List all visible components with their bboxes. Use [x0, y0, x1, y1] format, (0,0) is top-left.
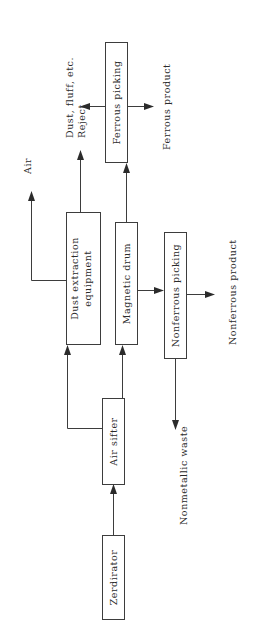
arrow-head-icon [110, 484, 117, 494]
edge-zerdirator-to-air-sifter [110, 484, 117, 535]
node-air-sifter[interactable]: Air sifter [103, 399, 125, 485]
node-dust-extraction[interactable]: Dust extraction equipment [67, 213, 101, 345]
flow-label-air: Air [22, 158, 33, 175]
flow-label-nonmetallic-waste: Nonmetallic waste [178, 426, 189, 525]
zerdirator-label: Zerdirator [108, 550, 119, 606]
dust-extraction-label: Dust extraction [69, 237, 80, 320]
flow-label-dust-fluff: Dust, fluff, etc. [64, 57, 75, 138]
flow-label-nonferrous-product: Nonferrous product [227, 239, 238, 345]
arrow-head-icon [123, 163, 130, 173]
ferrous-picking-label: Ferrous picking [111, 60, 122, 144]
arrow-head-icon [154, 287, 164, 294]
flow-label-reject: Reject [76, 104, 87, 138]
node-zerdirator[interactable]: Zerdirator [103, 536, 125, 620]
arrow-head-icon [119, 345, 126, 355]
flow-label-ferrous-product: Ferrous product [161, 64, 172, 150]
diagram-page: Zerdirator Air sifter Dust extraction eq… [0, 0, 275, 635]
edge-nonferrous-picking-to-nonferrous-product [187, 291, 216, 298]
arrow-head-icon [28, 191, 35, 201]
nonferrous-picking-label: Nonferrous picking [170, 244, 181, 347]
edge-ferrous-picking-to-ferrous-product [128, 103, 155, 110]
magnetic-drum-label: Magnetic drum [121, 243, 132, 324]
node-nonferrous-picking[interactable]: Nonferrous picking [165, 233, 187, 359]
edge-magnetic-drum-to-nonferrous-picking [138, 287, 165, 294]
dust-extraction-label-line2: equipment [82, 250, 93, 306]
edge-nonferrous-picking-to-nonmetallic-waste [172, 358, 179, 430]
process-flow-diagram: Zerdirator Air sifter Dust extraction eq… [0, 0, 275, 635]
arrow-head-icon [64, 345, 71, 355]
node-magnetic-drum[interactable]: Magnetic drum [116, 223, 138, 345]
edge-air-sifter-to-dust-extraction [64, 345, 103, 429]
arrow-head-icon [77, 150, 84, 160]
edge-dust-extraction-to-air [28, 191, 67, 281]
arrow-head-icon [205, 291, 215, 298]
node-ferrous-picking[interactable]: Ferrous picking [106, 43, 128, 163]
air-sifter-label: Air sifter [108, 417, 119, 466]
edge-air-sifter-to-magnetic-drum [119, 345, 126, 398]
arrow-head-icon [144, 103, 154, 110]
edge-magnetic-drum-to-ferrous-picking [123, 163, 130, 222]
edge-dust-extraction-to-dust-fluff [77, 150, 84, 212]
